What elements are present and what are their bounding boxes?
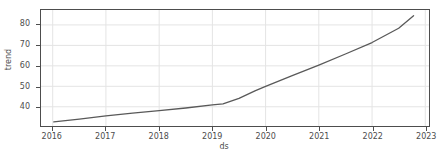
x-tick-mark — [426, 127, 427, 131]
x-tick-label: 2019 — [192, 132, 232, 141]
x-axis-tick-labels: 20162017201820192020202120222023 — [0, 0, 448, 154]
x-tick-label: 2021 — [299, 132, 339, 141]
x-tick-label: 2023 — [406, 132, 446, 141]
x-axis-title: ds — [0, 142, 448, 151]
x-tick-mark — [159, 127, 160, 131]
x-tick-mark — [52, 127, 53, 131]
x-tick-label: 2020 — [246, 132, 286, 141]
x-tick-mark — [373, 127, 374, 131]
y-axis-title: trend — [4, 40, 13, 80]
x-tick-label: 2017 — [85, 132, 125, 141]
x-tick-mark — [266, 127, 267, 131]
x-tick-label: 2022 — [353, 132, 393, 141]
x-tick-label: 2016 — [32, 132, 72, 141]
x-tick-label: 2018 — [139, 132, 179, 141]
chart-figure: 4050607080 20162017201820192020202120222… — [0, 0, 448, 154]
x-tick-mark — [212, 127, 213, 131]
x-tick-mark — [105, 127, 106, 131]
x-tick-mark — [319, 127, 320, 131]
